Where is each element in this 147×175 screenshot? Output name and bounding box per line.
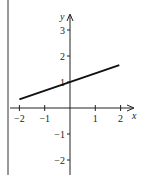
- y-axis-label: y: [59, 11, 65, 22]
- y-tick-label: −2: [54, 155, 65, 166]
- chart-canvas: −2−112321−1−2 x y: [0, 0, 147, 175]
- y-tick-label: −1: [54, 129, 65, 140]
- x-tick-label: 2: [118, 113, 123, 124]
- axes: [10, 14, 134, 175]
- y-tick-label: 2: [60, 51, 65, 62]
- x-axis-label: x: [131, 110, 137, 121]
- x-tick-label: −1: [39, 113, 50, 124]
- y-tick-label: 3: [60, 25, 65, 36]
- x-tick-label: 1: [93, 113, 98, 124]
- x-tick-label: −2: [14, 113, 25, 124]
- data-series: [19, 65, 119, 99]
- series-line: [19, 65, 119, 99]
